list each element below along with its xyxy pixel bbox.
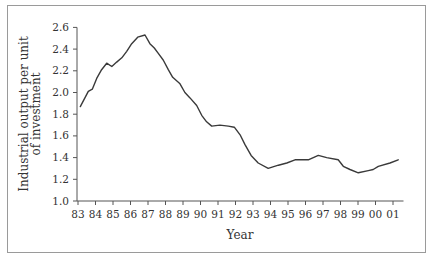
x-tick-label: 97 [316,208,329,220]
y-tick-label: 2.2 [52,64,69,76]
x-tick-label: 01 [386,208,399,220]
x-tick-label: 96 [299,208,313,220]
x-tick-label: 98 [334,208,347,220]
y-axis-title-line-2: of investment [29,72,43,155]
y-tick-label: 2.0 [52,86,69,98]
y-axis-title: Industrial output per unit of investment [17,36,43,192]
plot-area [80,35,398,173]
y-tick-label: 1.6 [52,129,69,141]
x-tick-label: 92 [229,208,242,220]
x-tick-label: 99 [351,208,364,220]
x-tick-label: 94 [264,208,278,220]
x-tick-label: 95 [281,208,294,220]
y-tick-label: 1.0 [52,195,69,207]
y-tick-label: 2.4 [52,43,69,55]
x-tick-label: 87 [141,208,154,220]
x-axis-title: Year [226,228,254,242]
x-tick-label: 83 [71,208,84,220]
x-tick-label: 88 [159,208,172,220]
x-tick-label: 91 [211,208,224,220]
y-tick-label: 2.6 [52,21,69,33]
x-tick-label: 86 [124,208,138,220]
x-tick-label: 90 [194,208,207,220]
x-tick-label: 00 [369,208,382,220]
x-tick-label: 89 [176,208,189,220]
y-axis: 1.01.21.41.61.82.02.22.42.6 [52,21,77,207]
y-tick-label: 1.8 [52,108,69,120]
line-chart: 1.01.21.41.61.82.02.22.42.6 838485868788… [0,0,432,257]
y-tick-label: 1.4 [52,151,69,163]
x-tick-label: 93 [246,208,259,220]
y-tick-label: 1.2 [52,173,69,185]
x-tick-label: 85 [106,208,119,220]
series-line [80,35,398,173]
x-tick-label: 84 [89,208,103,220]
x-axis: 83848586878889909192939495969798990001 [71,201,403,220]
